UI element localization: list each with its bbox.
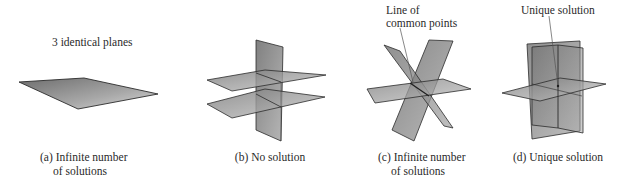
unique-point: [557, 85, 559, 87]
panel-c-caption-line2: of solutions: [378, 164, 458, 178]
panel-b-planes: [207, 40, 326, 141]
panel-c-annotation: Line of common points: [386, 4, 457, 30]
panel-c-caption: (c) Infinite number of solutions: [378, 150, 458, 178]
panel-a-planes: [19, 78, 158, 109]
panel-b-caption: (b) No solution: [230, 150, 310, 164]
panel-a-caption: (a) Infinite number of solutions: [40, 150, 120, 178]
panel-d-caption: (d) Unique solution: [513, 150, 593, 164]
panel-d-caption-line1: (d) Unique solution: [513, 150, 593, 164]
panel-c-planes: [367, 28, 471, 141]
panel-a-caption-line1: (a) Infinite number: [40, 150, 120, 164]
panel-c-annotation-line1: Line of: [386, 4, 457, 17]
panel-c-annotation-line2: common points: [386, 17, 457, 30]
panel-b-caption-line1: (b) No solution: [230, 150, 310, 164]
panel-a-caption-line2: of solutions: [40, 164, 120, 178]
panel-d-annotation: Unique solution: [521, 4, 595, 17]
panel-a-annotation: 3 identical planes: [52, 36, 132, 49]
panel-c-caption-line1: (c) Infinite number: [378, 150, 458, 164]
panel-d-planes: [502, 16, 606, 139]
identical-plane: [19, 78, 158, 109]
